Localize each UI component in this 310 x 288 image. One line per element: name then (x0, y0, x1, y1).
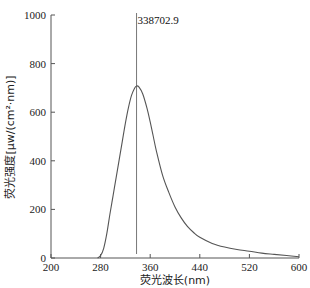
x-tick-label: 360 (142, 261, 159, 273)
x-tick-label: 520 (241, 261, 258, 273)
x-axis-title: 荧光波长(nm) (140, 273, 210, 287)
peak-marker-label: 338702.9 (138, 14, 180, 26)
y-tick-label: 600 (30, 106, 47, 118)
x-tick-label: 280 (92, 261, 109, 273)
y-tick-label: 200 (30, 203, 47, 215)
annotation-layer: 338702.9 (137, 13, 180, 254)
y-tick-label: 1000 (24, 9, 47, 21)
data-series (98, 86, 300, 258)
spectrum-curve (98, 86, 300, 258)
y-axis-title: 荧光强度[μw/(cm²·nm)] (3, 75, 17, 198)
y-tick-label: 400 (30, 155, 47, 167)
axis-ticks: 02004006008001000200280360440520600 (24, 9, 308, 273)
x-tick-label: 600 (291, 261, 308, 273)
x-tick-label: 440 (192, 261, 209, 273)
axes (51, 15, 299, 258)
fluorescence-spectrum-chart: 02004006008001000200280360440520600 3387… (0, 0, 310, 288)
x-tick-label: 200 (43, 261, 60, 273)
y-tick-label: 800 (30, 58, 47, 70)
